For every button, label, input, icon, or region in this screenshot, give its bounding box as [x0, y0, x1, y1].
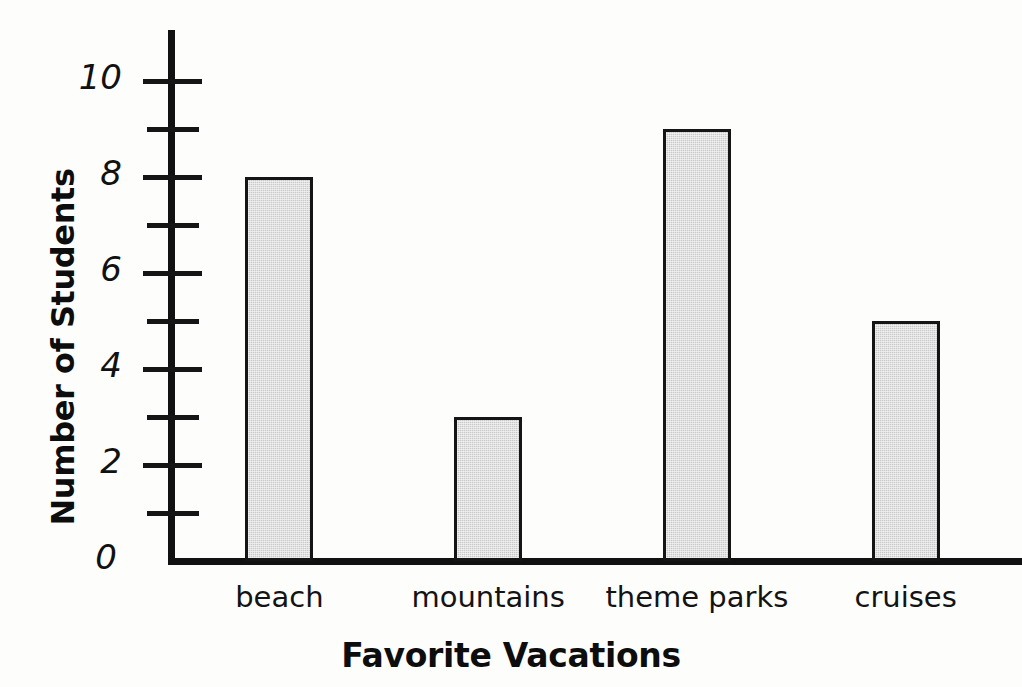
y-axis-minor-tick: [147, 415, 199, 420]
bar-chart: Number of Students 0246810 beachmountain…: [0, 0, 1022, 687]
y-axis-tick-label: 2: [62, 444, 122, 478]
y-axis-line: [168, 30, 175, 565]
bar-theme-parks: [663, 129, 731, 561]
bar-mountains: [454, 417, 522, 561]
y-axis-major-tick: [143, 367, 202, 372]
y-axis-major-tick: [143, 271, 202, 276]
y-axis-tick-label: 8: [62, 156, 122, 190]
bar-cruises: [872, 321, 940, 561]
y-axis-minor-tick: [147, 319, 199, 324]
y-axis-tick-label: 0: [57, 540, 117, 574]
y-axis-tick-label: 4: [62, 348, 122, 382]
x-axis-title: Favorite Vacations: [0, 636, 1022, 675]
y-axis-minor-tick: [147, 511, 199, 516]
y-axis-major-tick: [143, 175, 202, 180]
plot-area: 0246810 beachmountainstheme parkscruises: [0, 0, 1022, 687]
bar-beach: [245, 177, 313, 561]
x-axis-label-cruises: cruises: [766, 583, 1022, 612]
y-axis-tick-label: 10: [62, 60, 122, 94]
y-axis-major-tick: [143, 463, 202, 468]
y-axis-minor-tick: [147, 127, 199, 132]
y-axis-tick-label: 6: [62, 252, 122, 286]
y-axis-minor-tick: [147, 223, 199, 228]
y-axis-major-tick: [143, 79, 202, 84]
